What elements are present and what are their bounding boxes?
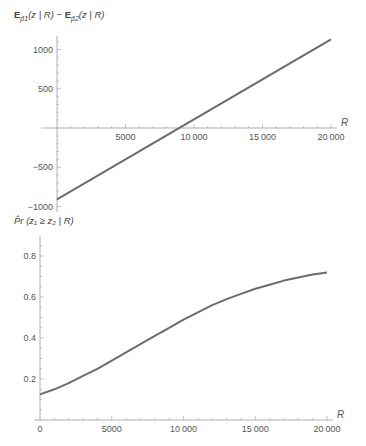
y-tick-label: 0.2 [23, 374, 36, 384]
y-tick-label: 500 [38, 84, 53, 94]
x-axis-title: R [337, 409, 344, 420]
x-tick-label: 15 000 [249, 132, 276, 142]
x-axis-title: R [341, 117, 348, 128]
chart-canvas: 500010 00015 00020 000R−1000−50050010000… [0, 0, 366, 446]
x-tick-label: 10 000 [170, 424, 197, 434]
y-tick-label: 1000 [33, 45, 53, 55]
top-y-axis-title: Ep̂1(z | R) − Ep̂2(z | R) [14, 9, 104, 23]
y-tick-label: 0.6 [23, 292, 36, 302]
data-line [57, 39, 331, 199]
top-chart: 500010 00015 00020 000R−1000−5005001000 [28, 36, 349, 212]
x-tick-label: 5000 [115, 132, 135, 142]
y-tick-label: −1000 [28, 202, 53, 212]
bottom-chart: 0500010 00015 00020 000R0.20.40.60.8 [23, 236, 344, 434]
x-tick-label: 20 000 [318, 132, 345, 142]
x-tick-label: 0 [37, 424, 42, 434]
data-line [40, 272, 327, 394]
y-tick-label: 0.8 [23, 251, 36, 261]
x-tick-label: 15 000 [242, 424, 269, 434]
x-tick-label: 20 000 [314, 424, 341, 434]
y-tick-label: −500 [33, 162, 53, 172]
x-tick-label: 10 000 [181, 132, 208, 142]
bottom-y-axis-title: P̂r (z₁ ≥ z₂ | R) [14, 215, 74, 226]
y-tick-label: 0.4 [23, 333, 36, 343]
x-tick-label: 5000 [102, 424, 122, 434]
